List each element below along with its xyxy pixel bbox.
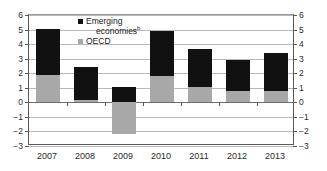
y-tick-left [25, 102, 29, 103]
chart-legend: Emerging economiesb OECD [78, 16, 140, 46]
x-axis-label: 2010 [151, 152, 171, 161]
y-axis-label-left: −2 [13, 127, 23, 136]
x-axis-label: 2009 [113, 152, 133, 161]
y-tick-right [293, 15, 297, 16]
x-axis-label: 2012 [227, 152, 247, 161]
y-tick-left [25, 73, 29, 74]
bar-segment-oecd[interactable] [226, 91, 250, 103]
chart-container: 66554433221100−1−1−2−2−3−3 Emerging econ… [0, 0, 327, 171]
gridline [29, 146, 293, 147]
y-axis-label-left: 1 [18, 84, 23, 93]
y-axis-label-left: 0 [18, 98, 23, 107]
plot-area: 66554433221100−1−1−2−2−3−3 [28, 14, 294, 145]
x-tick [181, 102, 182, 106]
y-tick-right [293, 131, 297, 132]
legend-swatch-emerging-icon [78, 19, 83, 24]
bar-segment-emerging[interactable] [226, 60, 250, 91]
bar-segment-emerging[interactable] [74, 67, 98, 100]
bar-segment-emerging[interactable] [264, 53, 288, 91]
y-tick-left [25, 146, 29, 147]
y-tick-right [293, 117, 297, 118]
legend-label-oecd: OECD [86, 36, 111, 46]
y-axis-label-left: 4 [18, 40, 23, 49]
y-axis-label-right: 1 [299, 84, 304, 93]
y-axis-label-right: −1 [299, 113, 309, 122]
bar-segment-oecd[interactable] [112, 102, 136, 134]
x-axis-label: 2008 [75, 152, 95, 161]
bar-segment-oecd[interactable] [36, 75, 60, 102]
y-tick-right [293, 44, 297, 45]
bar-segment-emerging[interactable] [150, 31, 174, 76]
y-tick-right [293, 102, 297, 103]
bar-segment-oecd[interactable] [74, 100, 98, 102]
bar-group[interactable] [226, 15, 250, 144]
x-tick [67, 102, 68, 106]
bar-group[interactable] [264, 15, 288, 144]
y-axis-label-right: 4 [299, 40, 304, 49]
x-axis-label: 2013 [265, 152, 285, 161]
bar-segment-emerging[interactable] [188, 49, 212, 87]
y-axis-label-right: 2 [299, 69, 304, 78]
y-tick-right [293, 59, 297, 60]
y-axis-label-right: 3 [299, 55, 304, 64]
y-tick-right [293, 88, 297, 89]
y-tick-right [293, 73, 297, 74]
y-axis-label-left: −1 [13, 113, 23, 122]
legend-superscript: b [137, 25, 140, 31]
y-axis-label-left: 2 [18, 69, 23, 78]
y-tick-left [25, 44, 29, 45]
y-axis-label-right: 6 [299, 11, 304, 20]
bar-segment-emerging[interactable] [112, 87, 136, 102]
legend-item-emerging: Emerging economiesb [78, 16, 140, 36]
bar-segment-oecd[interactable] [264, 91, 288, 103]
x-tick [257, 102, 258, 106]
x-tick [105, 102, 106, 106]
x-axis-label: 2007 [37, 152, 57, 161]
y-axis-label-right: −3 [299, 142, 309, 151]
x-axis-label: 2011 [189, 152, 208, 161]
y-tick-right [293, 30, 297, 31]
legend-item-oecd: OECD [78, 36, 140, 46]
bar-segment-emerging[interactable] [36, 29, 60, 76]
y-axis-label-left: −3 [13, 142, 23, 151]
y-axis-label-left: 6 [18, 11, 23, 20]
x-tick [219, 102, 220, 106]
x-tick [143, 102, 144, 106]
legend-label-emerging: Emerging economiesb [86, 16, 140, 36]
bar-group[interactable] [36, 15, 60, 144]
y-axis-label-right: −2 [299, 127, 309, 136]
bar-group[interactable] [150, 15, 174, 144]
y-tick-left [25, 15, 29, 16]
y-axis-label-left: 5 [18, 26, 23, 35]
y-tick-left [25, 59, 29, 60]
y-tick-right [293, 146, 297, 147]
y-axis-label-right: 0 [299, 98, 304, 107]
bar-segment-oecd[interactable] [188, 87, 212, 102]
legend-swatch-oecd-icon [78, 39, 83, 44]
bar-group[interactable] [188, 15, 212, 144]
bar-segment-oecd[interactable] [150, 76, 174, 102]
legend-label-emerging-line1: Emerging [86, 16, 122, 26]
y-tick-left [25, 131, 29, 132]
y-tick-left [25, 117, 29, 118]
y-tick-left [25, 88, 29, 89]
legend-label-emerging-line2: economiesb [86, 26, 140, 36]
y-axis-label-left: 3 [18, 55, 23, 64]
y-axis-label-right: 5 [299, 26, 304, 35]
y-tick-left [25, 30, 29, 31]
